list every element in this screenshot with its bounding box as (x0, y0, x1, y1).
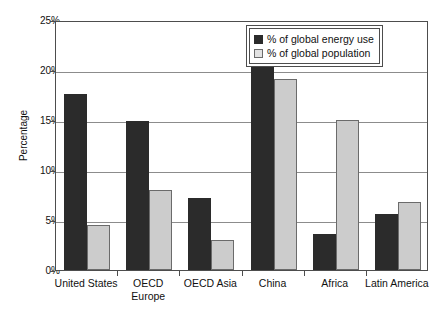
legend-item: % of global population (254, 46, 374, 60)
chart-legend-inner: % of global energy use% of global popula… (249, 28, 380, 64)
bar (87, 225, 110, 270)
bar (274, 79, 297, 270)
chart-legend: % of global energy use% of global popula… (246, 25, 383, 67)
light-square-swatch (254, 49, 263, 58)
gridline (56, 122, 427, 123)
bar (64, 94, 87, 270)
x-axis-tick-label: Latin America (356, 277, 438, 290)
bar (313, 234, 336, 270)
bar (336, 120, 359, 270)
bar (251, 53, 274, 270)
x-axis-tick-mark (179, 271, 180, 276)
y-axis-title: Percentage (18, 66, 29, 206)
gridline (56, 172, 427, 173)
bar-chart: Percentage 0%5%10%15%20%25% United State… (0, 0, 441, 318)
bar (126, 121, 149, 270)
bar (211, 240, 234, 270)
bar (398, 202, 421, 270)
x-axis-tick-mark (117, 271, 118, 276)
gridline (56, 222, 427, 223)
bar-group (188, 22, 234, 270)
legend-item-label: % of global energy use (267, 34, 374, 45)
bar (375, 214, 398, 270)
y-axis-tick-mark (50, 271, 55, 272)
x-axis-tick-label-line: Europe (107, 290, 189, 303)
bar-group (64, 22, 110, 270)
x-axis-tick-label-line: Latin America (356, 277, 438, 290)
x-axis-tick-mark (366, 271, 367, 276)
x-axis-tick-mark (242, 271, 243, 276)
bar (149, 190, 172, 270)
legend-item: % of global energy use (254, 32, 374, 46)
dark-square-swatch (254, 35, 263, 44)
x-axis-tick-mark (304, 271, 305, 276)
legend-item-label: % of global population (267, 48, 370, 59)
gridline (56, 72, 427, 73)
bar-group (126, 22, 172, 270)
bar (188, 198, 211, 270)
